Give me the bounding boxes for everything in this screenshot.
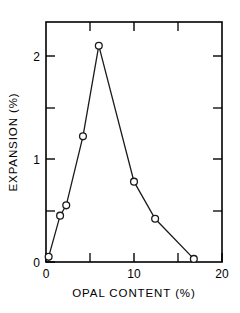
x-tick-label-0: 0	[43, 267, 50, 281]
chart-figure: 0 10 20 0 1 2 OPAL CONTENT (%) EXPANSION…	[0, 0, 240, 313]
y-tick-label-0: 0	[33, 256, 40, 270]
data-point-1	[57, 212, 64, 219]
x-tick-label-20: 20	[215, 267, 229, 281]
expansion-vs-opal-content-line-chart: 0 10 20 0 1 2 OPAL CONTENT (%) EXPANSION…	[0, 0, 240, 313]
x-tick-label-10: 10	[127, 267, 141, 281]
data-point-4	[95, 42, 102, 49]
data-point-2	[63, 202, 70, 209]
y-axis-ticks-right	[213, 56, 222, 211]
y-axis-title: EXPANSION (%)	[7, 92, 19, 191]
y-axis-ticks	[46, 56, 55, 262]
y-tick-label-1: 1	[33, 153, 40, 167]
data-point-5	[131, 178, 138, 185]
data-series-line	[49, 46, 194, 259]
y-tick-label-2: 2	[33, 50, 40, 64]
plot-frame	[46, 22, 222, 262]
data-point-0	[45, 253, 52, 260]
x-axis-ticks-top	[90, 22, 178, 31]
data-series-markers	[45, 42, 197, 262]
x-axis-title: OPAL CONTENT (%)	[72, 287, 195, 299]
data-point-7	[190, 256, 197, 263]
data-point-6	[152, 215, 159, 222]
data-point-3	[80, 133, 87, 140]
